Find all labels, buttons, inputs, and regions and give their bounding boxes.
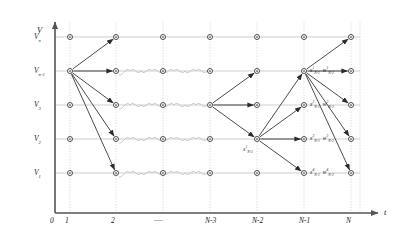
x-tick-label-0: 1 [65,216,69,225]
x-tick-label-3: N-3 [205,216,216,225]
trellis-canvas [0,0,400,233]
y-axis-title: V [37,25,42,35]
annotation-a5: x1N-2 [243,145,253,154]
annotation-a2: x2N-1 w2N-2 [310,100,334,109]
y-tick-label-1: Vn-1 [34,66,45,77]
origin-label: 0 [50,216,54,225]
trellis-figure: VnVn-1V3V2V1 12......N-3N-2N-1N x1N-1 w1… [0,0,400,233]
y-tick-label-4: V1 [34,168,41,179]
axes [55,22,378,213]
y-tick-label-3: V2 [34,134,41,145]
y-tick-label-2: V3 [34,100,41,111]
annotation-a4: x4N-1 w4N-2 [310,168,334,177]
grid-lines [55,22,360,213]
x-tick-label-1: 2 [111,216,115,225]
x-tick-label-4: N-2 [252,216,263,225]
x-tick-label-2: ...... [154,216,163,222]
x-tick-label-6: N [346,216,351,225]
x-axis-title: t [384,207,386,217]
annotation-a1: x1N-1 w1N-2 [310,66,334,75]
annotation-a3: x3N-1 w3N-2 [310,134,334,143]
x-tick-label-5: N-1 [299,216,310,225]
